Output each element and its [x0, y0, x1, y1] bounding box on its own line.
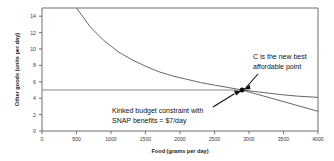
x-tick-label: 1000	[105, 136, 117, 142]
x-tick-label: 0	[41, 136, 44, 142]
y-tick-label: 12	[30, 30, 36, 36]
y-axis-title: Other goods (units per day)	[14, 33, 20, 106]
x-tick-label: 3500	[278, 136, 290, 142]
y-tick-label: 6	[33, 79, 36, 85]
x-axis-title: Food (grams per day)	[151, 148, 208, 154]
y-tick-label: 14	[30, 13, 36, 19]
chart-figure: 0 2 4 6 8 10 12 14 0 500 1000 1500	[0, 0, 334, 161]
y-tick-label: 10	[30, 46, 36, 52]
x-tick-label: 2000	[174, 136, 186, 142]
x-tick-label: 4000	[312, 136, 324, 142]
y-tick-label: 4	[33, 95, 36, 101]
y-tick-label: 0	[33, 128, 36, 134]
x-tick-label: 1500	[140, 136, 152, 142]
budget-constraint-annotation-line1: Kinked budget constraint with	[112, 107, 204, 115]
x-tick-label: 2500	[209, 136, 221, 142]
point-c-annotation-line2: affordable point	[253, 63, 301, 71]
x-tick-label: 500	[72, 136, 81, 142]
y-tick-label: 8	[33, 62, 36, 68]
x-tick-label: 3000	[243, 136, 255, 142]
budget-constraint-annotation-line2: SNAP benefits = $7/day	[112, 117, 187, 125]
y-tick-label: 2	[33, 112, 36, 118]
point-c-annotation-line1: C is the new best	[253, 53, 307, 60]
